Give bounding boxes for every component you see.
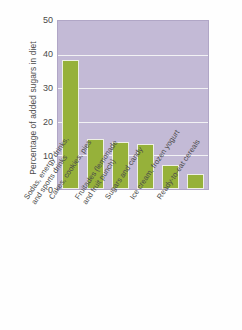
x-axis-tick-labels: Sodas, energy drinks,and sports drinks C…: [0, 192, 242, 330]
y-tick-40: 40: [35, 49, 53, 59]
bar-ready-to-eat-cereals: [187, 174, 204, 189]
y-tick-50: 50: [35, 15, 53, 25]
bar-chart-figure: Percentage of added sugars in diet 50 40…: [0, 0, 242, 330]
y-tick-20: 20: [35, 117, 53, 127]
y-tick-30: 30: [35, 83, 53, 93]
